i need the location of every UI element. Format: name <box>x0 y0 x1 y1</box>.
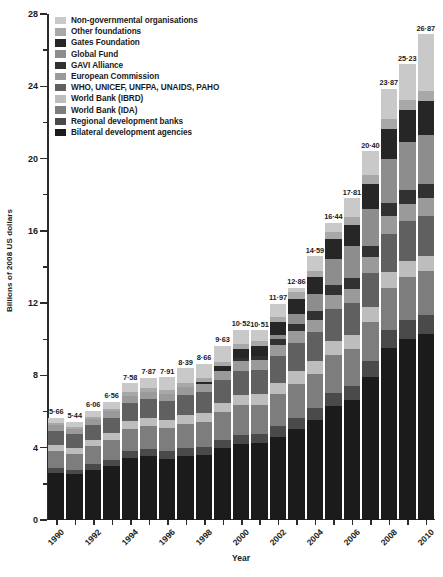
y-tick-major: 28 <box>28 8 47 20</box>
x-tick-mark <box>75 520 77 525</box>
y-tick-label: 24 <box>28 81 38 91</box>
y-tick-mark <box>43 122 47 124</box>
bar-2000[interactable]: 10·52 <box>233 330 249 520</box>
bar-segment <box>251 360 267 370</box>
bar-1996[interactable]: 7·91 <box>159 377 175 520</box>
bar-1998[interactable]: 8·66 <box>196 364 212 520</box>
bar-2005[interactable]: 16·44 <box>325 223 341 520</box>
bar-2001[interactable]: 10·51 <box>251 330 267 520</box>
legend-swatch-icon <box>55 106 66 114</box>
bar-1993[interactable]: 6·56 <box>103 401 119 520</box>
legend-label: World Bank (IBRD) <box>71 94 143 103</box>
bar-segment <box>399 320 415 339</box>
bar-segment <box>159 451 175 458</box>
x-tick-mark <box>186 520 188 525</box>
bar-segment <box>307 311 323 320</box>
bar-segment <box>214 440 230 449</box>
bar-1995[interactable]: 7·87 <box>140 378 156 520</box>
legend-item[interactable]: European Commission <box>55 71 270 82</box>
bar-segment <box>381 288 397 331</box>
bar-segment <box>233 371 249 395</box>
bar-value-label: 23·87 <box>380 78 398 87</box>
x-axis-title: Year <box>47 553 435 563</box>
bar-segment <box>418 101 434 135</box>
bar-segment <box>251 330 267 341</box>
bar-value-label: 6·56 <box>104 391 118 400</box>
bar-segment <box>233 444 249 520</box>
legend-item[interactable]: Non-governmental organisations <box>55 15 270 26</box>
bar-value-label: 26·87 <box>417 24 435 33</box>
y-tick-mark <box>43 339 47 341</box>
bar-2007[interactable]: 20·40 <box>362 151 378 520</box>
x-tick-mark <box>112 520 114 525</box>
legend-item[interactable]: GAVI Alliance <box>55 60 270 71</box>
bar-segment <box>307 374 323 409</box>
y-tick-label: 28 <box>28 9 38 19</box>
bar-segment <box>140 456 156 520</box>
bar-segment <box>325 355 341 392</box>
bar-segment <box>418 34 434 90</box>
bar-segment <box>48 451 64 468</box>
bar-segment <box>344 246 360 278</box>
legend-label: Non-governmental organisations <box>71 16 198 25</box>
x-tick-mark <box>370 520 372 525</box>
y-tick-mark <box>40 375 47 377</box>
bar-segment <box>307 277 323 294</box>
bar-2006[interactable]: 17·81 <box>344 198 360 520</box>
legend-item[interactable]: WHO, UNICEF, UNFPA, UNAIDS, PAHO <box>55 82 270 93</box>
bar-1997[interactable]: 8·39 <box>177 368 193 520</box>
x-tick-mark <box>259 520 261 525</box>
y-tick-mark <box>40 86 47 88</box>
bar-1991[interactable]: 5·44 <box>66 422 82 520</box>
bar-segment <box>307 420 323 520</box>
bar-segment <box>325 309 341 341</box>
legend-swatch-icon <box>55 118 66 126</box>
bar-segment <box>103 466 119 520</box>
x-tick-label: 1998 <box>194 527 214 547</box>
bar-1992[interactable]: 6·06 <box>85 411 101 521</box>
legend-item[interactable]: Other foundations <box>55 26 270 37</box>
bar-2003[interactable]: 12·86 <box>288 288 304 520</box>
bar-value-label: 10·52 <box>232 319 250 328</box>
y-tick-major: 0 <box>33 514 47 526</box>
bar-segment <box>362 175 378 184</box>
bar-segment <box>159 420 175 428</box>
bar-segment <box>251 394 267 404</box>
bar-value-label: 6·06 <box>86 400 100 409</box>
bar-segment <box>362 209 378 246</box>
bar-segment <box>288 371 304 383</box>
legend-item[interactable]: World Bank (IDA) <box>55 105 270 116</box>
legend-item[interactable]: Bilateral development agencies <box>55 127 270 138</box>
bar-segment <box>325 239 341 259</box>
legend-label: Gates Foundation <box>71 38 140 47</box>
bar-2002[interactable]: 11·97 <box>270 304 286 520</box>
legend-item[interactable]: Gates Foundation <box>55 37 270 48</box>
bar-segment <box>362 257 378 272</box>
bar-2010[interactable]: 26·87 <box>418 34 434 520</box>
bar-segment <box>251 346 267 356</box>
bar-segment <box>344 303 360 335</box>
bar-segment <box>122 396 138 403</box>
bar-1994[interactable]: 7·58 <box>122 383 138 520</box>
legend-item[interactable]: Regional development banks <box>55 116 270 127</box>
bar-segment <box>214 346 230 362</box>
legend-swatch-icon <box>55 73 66 81</box>
bar-1999[interactable]: 9·63 <box>214 346 230 520</box>
y-tick-major: 20 <box>28 153 47 165</box>
bar-segment <box>344 217 360 225</box>
legend-item[interactable]: Global Fund <box>55 49 270 60</box>
bar-segment <box>251 405 267 434</box>
bar-2004[interactable]: 14·59 <box>307 256 323 520</box>
legend-swatch-icon <box>55 129 66 137</box>
bar-segment <box>270 437 286 520</box>
bar-1990[interactable]: 5·66 <box>48 418 64 520</box>
bar-segment <box>270 394 286 426</box>
bar-2009[interactable]: 25·23 <box>399 64 415 520</box>
bar-segment <box>325 232 341 239</box>
bar-segment <box>381 272 397 288</box>
legend-item[interactable]: World Bank (IBRD) <box>55 93 270 104</box>
bar-segment <box>362 184 378 209</box>
y-tick-minor <box>43 478 47 490</box>
bar-2008[interactable]: 23·87 <box>381 89 397 520</box>
bar-segment <box>140 392 156 400</box>
